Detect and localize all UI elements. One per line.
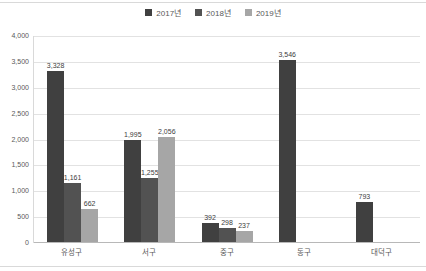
bar-slot: 237 [236, 36, 253, 243]
bar-group: 392298237 [188, 36, 265, 243]
bar-slot: 1,161 [64, 36, 81, 243]
x-axis-labels: 유성구서구중구동구대덕구 [33, 246, 420, 257]
plot-area: 3,3281,1616621,9951,2552,0563922982373,5… [33, 36, 420, 243]
bar-slot: 662 [81, 36, 98, 243]
y-tick-label: 500 [0, 213, 29, 221]
bar [64, 183, 81, 243]
data-label: 662 [84, 200, 96, 208]
chart: 2017년 2018년 2019년 4,0003,5003,0002,5002,… [0, 0, 426, 271]
bar [141, 178, 158, 243]
legend-label: 2017년 [156, 7, 181, 18]
bar [202, 223, 219, 243]
legend: 2017년 2018년 2019년 [0, 7, 426, 18]
bar-slot: 1,255 [141, 36, 158, 243]
bar-slot: 1,995 [124, 36, 141, 243]
data-label: 3,328 [47, 62, 65, 70]
bar-group: 793 [343, 36, 420, 243]
data-label: 1,255 [141, 169, 159, 177]
legend-swatch-icon [145, 9, 152, 16]
bar-slot: 298 [219, 36, 236, 243]
bar [279, 60, 296, 244]
bar-slot: 2,056 [158, 36, 175, 243]
bar-group: 3,546 [266, 36, 343, 243]
bar-slot [373, 36, 390, 243]
bar-group: 3,3281,161662 [34, 36, 111, 243]
data-label: 1,995 [124, 131, 142, 139]
x-tick-label: 동구 [265, 246, 342, 257]
bar-slot: 3,546 [279, 36, 296, 243]
bar [47, 71, 64, 243]
y-tick-label: 2,500 [0, 110, 29, 118]
data-label: 793 [359, 193, 371, 201]
bar [356, 202, 373, 243]
y-tick-label: 1,000 [0, 187, 29, 195]
y-tick-label: 1,500 [0, 161, 29, 169]
legend-swatch-icon [245, 9, 252, 16]
x-tick-label: 중구 [188, 246, 265, 257]
y-tick-label: 3,500 [0, 58, 29, 66]
bar [219, 228, 236, 243]
bar-slot: 3,328 [47, 36, 64, 243]
bar [81, 209, 98, 243]
bar-groups: 3,3281,1616621,9951,2552,0563922982373,5… [34, 36, 420, 243]
data-label: 1,161 [64, 174, 82, 182]
bar [124, 140, 141, 243]
bar-slot [313, 36, 330, 243]
y-tick-label: 4,000 [0, 32, 29, 40]
bar-slot [296, 36, 313, 243]
bar-group: 1,9951,2552,056 [111, 36, 188, 243]
data-label: 3,546 [278, 51, 296, 59]
y-tick-label: 0 [0, 239, 29, 247]
y-tick-label: 3,000 [0, 84, 29, 92]
x-tick-label: 유성구 [33, 246, 110, 257]
legend-label: 2018년 [206, 7, 231, 18]
legend-item-2019: 2019년 [245, 7, 281, 18]
x-axis-line [34, 242, 420, 243]
data-label: 237 [238, 222, 250, 230]
data-label: 392 [204, 214, 216, 222]
legend-item-2017: 2017년 [145, 7, 181, 18]
data-label: 2,056 [158, 128, 176, 136]
x-tick-label: 대덕구 [343, 246, 420, 257]
y-tick-label: 2,000 [0, 136, 29, 144]
bar [158, 137, 175, 243]
chart-frame-top-line [0, 2, 426, 3]
bar-slot: 793 [356, 36, 373, 243]
x-tick-label: 서구 [110, 246, 187, 257]
bar-slot: 392 [202, 36, 219, 243]
bar-slot [390, 36, 407, 243]
chart-frame-bottom-line [0, 266, 426, 267]
legend-label: 2019년 [256, 7, 281, 18]
legend-item-2018: 2018년 [195, 7, 231, 18]
data-label: 298 [221, 219, 233, 227]
legend-swatch-icon [195, 9, 202, 16]
